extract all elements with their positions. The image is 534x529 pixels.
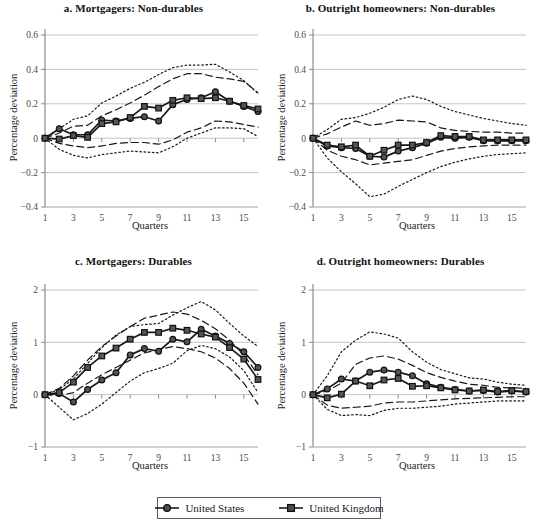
xtick-label: 9 [424, 453, 429, 463]
ytick-label: 0.4 [26, 65, 38, 75]
data-point-square [481, 387, 487, 393]
data-point-square [142, 104, 148, 110]
xtick-label: 3 [339, 453, 344, 463]
data-point-square [156, 105, 162, 111]
data-point-square [367, 153, 373, 159]
data-point-square [509, 388, 515, 394]
data-point-square [42, 135, 48, 141]
panel-d: d. Outright homeowners: Durables Percent… [267, 255, 534, 487]
data-point-square [213, 334, 219, 340]
xtick-label: 13 [479, 453, 489, 463]
data-point-square [466, 134, 472, 140]
xtick-label: 5 [367, 453, 372, 463]
panel-c-plot: −101213579111315 [0, 255, 267, 487]
data-point-square [85, 135, 91, 141]
data-point-square [410, 383, 416, 389]
ytick-label: 1 [301, 338, 306, 348]
data-point-square [56, 390, 62, 396]
xtick-label: 1 [311, 213, 316, 223]
series-line-inner-band-upper [45, 74, 258, 139]
data-point-square [99, 121, 105, 127]
data-point-circle [324, 386, 330, 392]
xtick-label: 7 [396, 213, 401, 223]
ytick-label: 0 [33, 134, 38, 144]
data-point-circle [213, 89, 219, 95]
data-point-square [324, 395, 330, 401]
data-point-circle [184, 339, 190, 345]
data-point-square [395, 142, 401, 148]
series-line-outer-band-lower [313, 395, 526, 416]
data-point-circle [410, 373, 416, 379]
data-point-square [310, 135, 316, 141]
data-point-square [495, 137, 501, 143]
xtick-label: 1 [43, 453, 48, 463]
ytick-label: 0 [301, 390, 306, 400]
data-point-square [523, 137, 529, 143]
legend-label-united-states: United States [185, 502, 244, 514]
data-point-square [339, 391, 345, 397]
panel-b: b. Outright homeowners: Non-durables Per… [267, 2, 534, 250]
data-point-circle [381, 154, 387, 160]
data-point-square [213, 95, 219, 101]
xtick-label: 15 [239, 213, 249, 223]
data-point-square [495, 389, 501, 395]
series-line-inner-band-lower [313, 138, 526, 165]
data-point-square [395, 376, 401, 382]
data-point-square [438, 385, 444, 391]
xtick-label: 1 [311, 453, 316, 463]
data-point-square [142, 330, 148, 336]
xtick-label: 5 [367, 213, 372, 223]
xtick-label: 5 [99, 453, 104, 463]
data-point-circle [113, 370, 119, 376]
data-point-square [324, 142, 330, 148]
data-point-square [127, 336, 133, 342]
xtick-label: 15 [507, 213, 517, 223]
data-point-circle [156, 118, 162, 124]
data-point-square [424, 140, 430, 146]
data-point-circle [142, 114, 148, 120]
data-point-square [170, 98, 176, 104]
xtick-label: 7 [128, 213, 133, 223]
panel-a: a. Mortgagers: Non-durables Percentage d… [0, 2, 267, 250]
data-point-square [198, 96, 204, 102]
data-point-square [227, 345, 233, 351]
legend-entry-united-kingdom: United Kingdom [278, 502, 383, 514]
data-point-circle [127, 352, 133, 358]
ytick-label: −0.2 [289, 168, 306, 178]
data-point-square [113, 119, 119, 125]
data-point-circle [170, 336, 176, 342]
data-point-square [184, 328, 190, 334]
data-point-circle [395, 148, 401, 154]
ytick-label: −0.4 [289, 202, 306, 212]
ytick-label: −1 [296, 442, 306, 452]
ytick-label: 0.6 [26, 30, 38, 40]
legend-entry-united-states: United States [154, 502, 244, 514]
data-point-square [198, 331, 204, 337]
circle-marker [154, 502, 180, 514]
data-point-circle [99, 377, 105, 383]
ytick-label: −1 [28, 442, 38, 452]
series-line-united-states [45, 329, 258, 402]
xtick-label: 7 [128, 453, 133, 463]
data-point-circle [85, 387, 91, 393]
data-point-square [438, 133, 444, 139]
data-point-square [310, 392, 316, 398]
ytick-label: 0.2 [294, 99, 306, 109]
data-point-square [452, 387, 458, 393]
data-point-square [113, 345, 119, 351]
panel-a-plot: −0.4−0.200.20.40.613579111315 [0, 2, 267, 250]
data-point-square [481, 137, 487, 143]
data-point-circle [255, 365, 261, 371]
xtick-label: 9 [424, 213, 429, 223]
series-line-united-kingdom [45, 328, 258, 394]
data-point-circle [156, 348, 162, 354]
data-point-circle [339, 376, 345, 382]
data-point-square [241, 356, 247, 362]
xtick-label: 3 [71, 453, 76, 463]
data-point-square [255, 106, 261, 112]
data-point-circle [395, 369, 401, 375]
xtick-label: 15 [239, 453, 249, 463]
figure-root: a. Mortgagers: Non-durables Percentage d… [0, 0, 534, 529]
ytick-label: 1 [33, 338, 38, 348]
ytick-label: 0.2 [26, 99, 38, 109]
